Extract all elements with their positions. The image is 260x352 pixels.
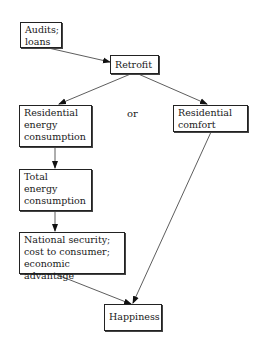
node-residential-comfort: Residential comfort <box>173 105 248 132</box>
edge-audits-retrofit <box>44 47 110 62</box>
node-national-security: National security; cost to consumer; eco… <box>19 232 125 274</box>
node-happiness: Happiness <box>104 304 162 331</box>
node-total-energy-consumption: Total energy consumption <box>19 169 92 211</box>
node-residential-energy-consumption: Residential energy consumption <box>19 105 92 147</box>
edge-retrofit-rescomfort <box>136 73 207 104</box>
or-label: or <box>127 108 138 119</box>
edge-comfort-happiness <box>133 132 211 303</box>
edge-retrofit-resenergy <box>59 73 133 104</box>
node-retrofit: Retrofit <box>110 55 159 74</box>
flow-diagram: Audits; loans Retrofit Residential energ… <box>0 0 260 352</box>
node-audits-loans: Audits; loans <box>20 22 62 48</box>
